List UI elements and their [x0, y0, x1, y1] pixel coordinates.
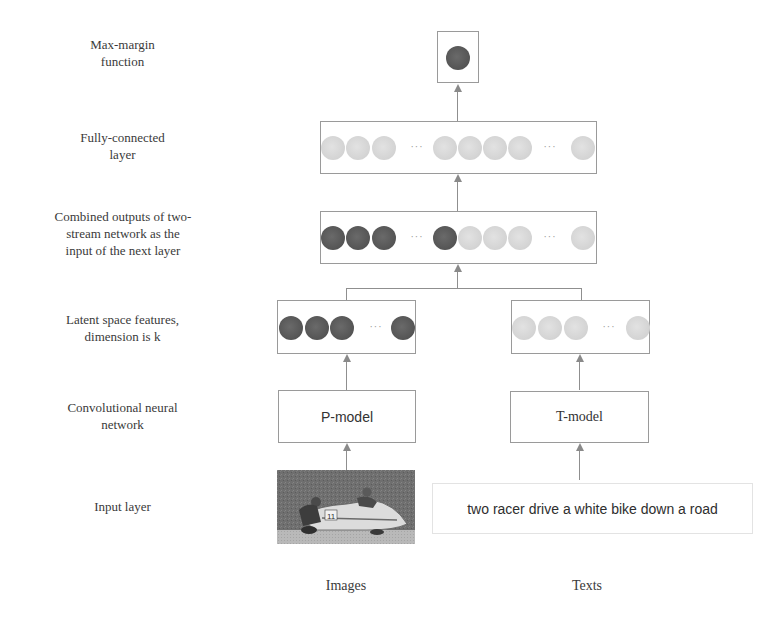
label-latent-space-features: Latent space features, dimension is k [40, 311, 205, 345]
image-feature-node [372, 226, 396, 250]
label-line: network [40, 416, 205, 433]
t-model-label: T-model [511, 409, 648, 425]
fc-node [433, 136, 457, 160]
text-feature-node [458, 226, 482, 250]
arrow-up-icon [454, 84, 462, 92]
connector-right-stream [581, 288, 582, 300]
image-feature-node [321, 226, 345, 250]
connector-left-stream [346, 288, 347, 300]
connector-tmodel-to-latent [579, 361, 580, 390]
label-line: stream network as the [28, 225, 218, 242]
fc-node [483, 136, 507, 160]
text-feature-node [508, 226, 532, 250]
connector-image-to-pmodel [346, 450, 347, 470]
connector-combined-to-fc [457, 181, 458, 211]
input-text-caption: two racer drive a white bike down a road [432, 483, 753, 534]
image-feature-node [433, 226, 457, 250]
image-latent-features-box: ··· [277, 300, 416, 354]
ellipsis: ··· [411, 141, 424, 152]
fc-node [508, 136, 532, 160]
fc-node [321, 136, 345, 160]
image-latent-node [330, 316, 354, 340]
label-line: dimension is k [40, 328, 205, 345]
fc-node [571, 136, 595, 160]
text-latent-node [626, 316, 650, 340]
connector-merge-stem [457, 271, 458, 288]
image-feature-node [346, 226, 370, 250]
connector-fc-to-output [457, 91, 458, 121]
text-latent-features-box: ··· [511, 300, 650, 354]
ellipsis: ··· [544, 141, 557, 152]
label-line: input of the next layer [28, 242, 218, 259]
connector-pmodel-to-latent [346, 361, 347, 390]
text-feature-node [571, 226, 595, 250]
fully-connected-layer-box: ··· ··· [320, 121, 597, 174]
ellipsis: ··· [370, 321, 383, 332]
image-latent-node [279, 316, 303, 340]
combined-outputs-box: ··· ··· [320, 211, 597, 264]
connector-merge-bar [346, 288, 582, 289]
p-model-label: P-model [279, 409, 415, 425]
stream-label-images: Images [306, 577, 386, 594]
label-line: Latent space features, [40, 311, 205, 328]
arrow-up-icon [343, 443, 351, 451]
text-latent-node [538, 316, 562, 340]
label-max-margin-function: Max-margin function [40, 36, 205, 70]
arrow-up-icon [454, 174, 462, 182]
fc-node [372, 136, 396, 160]
sidecar-racing-photo-icon: 11 [277, 470, 415, 544]
image-latent-node [305, 316, 329, 340]
label-line: layer [40, 146, 205, 163]
label-line: Fully-connected [40, 129, 205, 146]
label-line: Max-margin [40, 36, 205, 53]
connector-text-to-tmodel [579, 450, 580, 480]
image-latent-node [391, 316, 415, 340]
arrow-up-icon [576, 443, 584, 451]
label-line: Input layer [40, 498, 205, 515]
label-line: Combined outputs of two- [28, 208, 218, 225]
ellipsis: ··· [603, 321, 616, 332]
label-fully-connected-layer: Fully-connected layer [40, 129, 205, 163]
fc-node [458, 136, 482, 160]
stream-label-texts: Texts [547, 577, 627, 594]
output-node [446, 46, 470, 70]
fc-node [346, 136, 370, 160]
max-margin-node-box [437, 31, 479, 83]
arrow-up-icon [454, 264, 462, 272]
label-line: Convolutional neural [40, 399, 205, 416]
label-convolutional-neural-network: Convolutional neural network [40, 399, 205, 433]
input-image: 11 [277, 470, 415, 544]
arrow-up-icon [576, 354, 584, 362]
label-input-layer: Input layer [40, 498, 205, 515]
text-latent-node [564, 316, 588, 340]
arrow-up-icon [343, 354, 351, 362]
p-model-box: P-model [278, 390, 416, 443]
ellipsis: ··· [411, 231, 424, 242]
label-combined-outputs: Combined outputs of two- stream network … [28, 208, 218, 259]
ellipsis: ··· [544, 231, 557, 242]
text-latent-node [512, 316, 536, 340]
t-model-box: T-model [510, 391, 649, 443]
label-line: function [40, 53, 205, 70]
text-feature-node [483, 226, 507, 250]
svg-text:11: 11 [327, 512, 336, 521]
